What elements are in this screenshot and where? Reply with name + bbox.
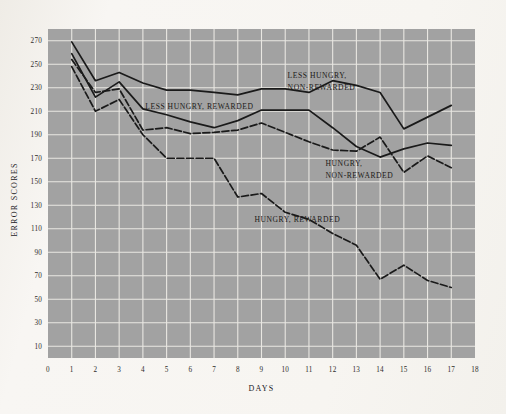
y-tick-label: 130 [31,202,43,210]
series-label-2-line2: NON-REWARDED [326,171,394,180]
y-tick-label: 270 [31,37,43,45]
x-tick-label: 9 [260,366,264,374]
y-tick-label: 190 [31,131,43,139]
y-tick-label: 110 [31,225,42,233]
figure-container: 0123456789101112131415161718 10305070901… [0,0,506,414]
x-tick-label: 5 [165,366,169,374]
series-label-0-line2: NON-REWARDED [288,83,356,92]
x-tick-label: 13 [353,366,361,374]
x-tick-label: 1 [70,366,74,374]
y-axis-title: ERROR SCORES [10,162,19,237]
y-tick-label: 150 [31,178,43,186]
y-axis-tick-labels: 1030507090110130150170190210230250270 [31,37,43,351]
x-tick-label: 0 [46,366,50,374]
y-tick-label: 250 [31,61,43,69]
series-label-2: HUNGRY, [326,159,363,168]
x-axis-tick-labels: 0123456789101112131415161718 [46,366,479,374]
x-tick-label: 8 [236,366,240,374]
series-label-1: LESS HUNGRY, REWARDED [145,102,253,111]
y-tick-label: 70 [34,272,42,280]
y-tick-label: 30 [34,319,42,327]
y-tick-label: 10 [34,343,42,351]
x-tick-label: 17 [447,366,455,374]
y-tick-label: 90 [34,249,42,257]
x-tick-label: 6 [188,366,192,374]
series-label-3: HUNGRY, REWARDED [254,215,340,224]
x-tick-label: 3 [117,366,121,374]
x-tick-label: 2 [94,366,98,374]
y-tick-label: 230 [31,84,43,92]
x-tick-label: 16 [424,366,432,374]
x-tick-label: 12 [329,366,337,374]
series-label-0: LESS HUNGRY, [288,71,347,80]
x-tick-label: 11 [305,366,313,374]
y-tick-label: 170 [31,155,43,163]
error-scores-line-chart: 0123456789101112131415161718 10305070901… [0,0,506,414]
x-axis-title: DAYS [248,384,274,393]
x-tick-label: 7 [212,366,216,374]
x-tick-label: 10 [281,366,289,374]
y-tick-label: 50 [34,296,42,304]
x-tick-label: 18 [471,366,479,374]
y-tick-label: 210 [31,108,43,116]
x-tick-label: 14 [376,366,384,374]
x-tick-label: 15 [400,366,408,374]
x-tick-label: 4 [141,366,145,374]
